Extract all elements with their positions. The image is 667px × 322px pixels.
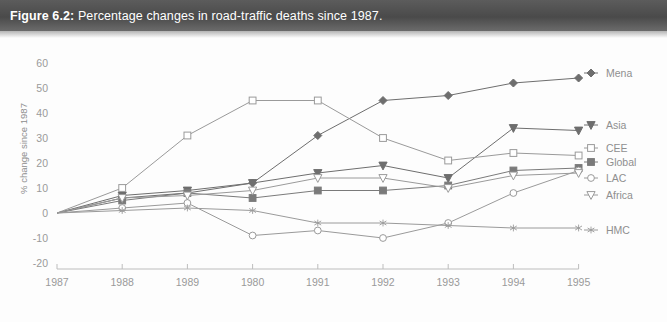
- legend-item-mena[interactable]: Mena: [584, 67, 632, 79]
- marker-open-square: [184, 132, 191, 139]
- legend-item-asia[interactable]: Asia: [584, 119, 627, 131]
- marker-open-square: [510, 150, 517, 157]
- series-line: [57, 101, 579, 214]
- x-axis-tick-label: 1980: [241, 276, 265, 288]
- marker-filled-diamond: [587, 69, 595, 77]
- marker-open-square: [588, 145, 595, 152]
- legend-label: Global: [606, 156, 636, 168]
- legend-label: HMC: [606, 224, 630, 236]
- marker-filled-diamond: [314, 132, 322, 140]
- y-axis-tick-label: 0: [42, 207, 48, 219]
- legend-label: Asia: [606, 119, 627, 131]
- y-axis-tick-label: 10: [36, 182, 48, 194]
- marker-open-circle: [380, 235, 387, 242]
- marker-open-circle: [588, 175, 595, 182]
- marker-open-circle: [249, 232, 256, 239]
- marker-open-square: [119, 185, 126, 192]
- x-axis-tick-label: 1992: [371, 276, 395, 288]
- figure-caption: Percentage changes in road-traffic death…: [78, 9, 383, 23]
- marker-open-square: [249, 97, 256, 104]
- legend-item-hmc[interactable]: HMC: [584, 224, 630, 236]
- y-axis-tick-label: 20: [36, 157, 48, 169]
- series-cee: [57, 97, 582, 213]
- figure-title-bar: Figure 6.2: Percentage changes in road-t…: [0, 0, 667, 31]
- x-axis-tick-label: 1993: [437, 276, 461, 288]
- figure-title: Figure 6.2: Percentage changes in road-t…: [0, 9, 382, 23]
- legend-item-africa[interactable]: Africa: [584, 189, 633, 201]
- x-axis-tick-label: 1994: [502, 276, 526, 288]
- marker-open-circle: [510, 190, 517, 197]
- marker-filled-diamond: [379, 97, 387, 105]
- legend-item-cee[interactable]: CEE: [584, 142, 628, 154]
- legend-label: Mena: [606, 67, 632, 79]
- y-axis-tick-label: -10: [33, 232, 48, 244]
- y-axis-tick-label: 30: [36, 132, 48, 144]
- chart-plot-area: % change since 1987 6050403020100-10-201…: [0, 38, 667, 322]
- x-axis-tick-label: 1988: [111, 276, 135, 288]
- marker-filled-triangle-down: [444, 175, 452, 183]
- figure-container: Figure 6.2: Percentage changes in road-t…: [0, 0, 667, 322]
- marker-filled-square: [380, 187, 387, 194]
- line-chart: 6050403020100-10-20198719881989198019911…: [0, 38, 667, 322]
- x-axis-tick-label: 1987: [45, 276, 69, 288]
- legend-label: Africa: [606, 189, 633, 201]
- figure-number: Figure 6.2:: [10, 9, 74, 23]
- y-axis-tick-label: 50: [36, 82, 48, 94]
- marker-filled-square: [314, 187, 321, 194]
- x-axis-tick-label: 1989: [176, 276, 200, 288]
- marker-filled-triangle-down: [575, 127, 583, 135]
- y-axis-label: % change since 1987: [18, 89, 29, 209]
- y-axis-tick-label: -20: [33, 257, 48, 269]
- legend-item-lac[interactable]: LAC: [584, 172, 627, 184]
- y-axis-tick-label: 40: [36, 107, 48, 119]
- marker-filled-diamond: [509, 79, 517, 87]
- x-axis-tick-label: 1991: [306, 276, 330, 288]
- x-axis-tick-label: 1995: [567, 276, 591, 288]
- marker-open-circle: [314, 227, 321, 234]
- title-shadow: [0, 31, 667, 38]
- marker-filled-diamond: [444, 92, 452, 100]
- legend-label: CEE: [606, 142, 628, 154]
- y-axis-tick-label: 60: [36, 57, 48, 69]
- marker-open-square: [314, 97, 321, 104]
- marker-open-square: [445, 157, 452, 164]
- marker-open-square: [575, 152, 582, 159]
- marker-filled-diamond: [575, 74, 583, 82]
- legend-label: LAC: [606, 172, 627, 184]
- marker-filled-square: [588, 159, 595, 166]
- legend-item-global[interactable]: Global: [584, 156, 636, 168]
- marker-open-square: [380, 135, 387, 142]
